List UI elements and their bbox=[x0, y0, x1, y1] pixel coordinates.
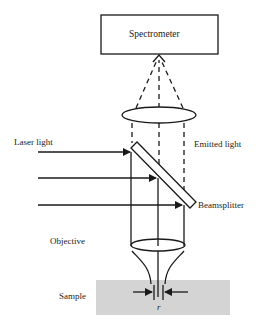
spectrometer-label: Spectrometer bbox=[129, 29, 180, 39]
objective-label: Objective bbox=[50, 236, 85, 246]
collection-lens bbox=[122, 107, 196, 123]
diagram-canvas bbox=[0, 0, 265, 327]
beamsplitter bbox=[131, 142, 196, 208]
emitted-light-label: Emitted light bbox=[194, 139, 241, 149]
laser-light-label: Laser light bbox=[14, 137, 53, 147]
emitted-light-cone bbox=[136, 60, 183, 108]
radius-label: r bbox=[157, 302, 161, 312]
beamsplitter-label: Beamsplitter bbox=[198, 200, 244, 210]
sample-label: Sample bbox=[59, 291, 86, 301]
